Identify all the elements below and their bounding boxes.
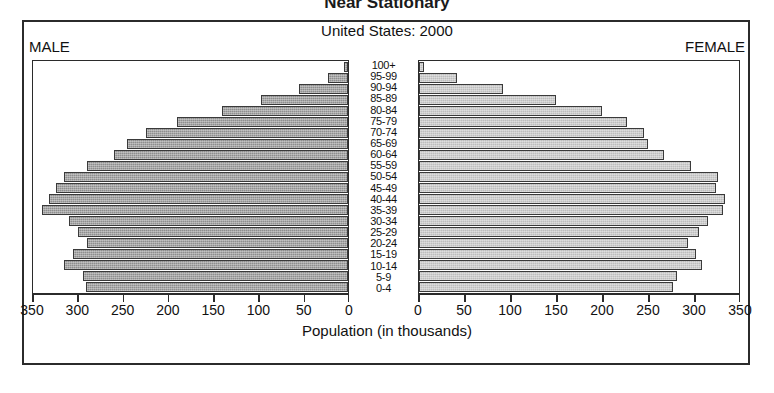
axis-tick-label: 50 xyxy=(456,302,472,318)
bar xyxy=(73,249,348,259)
bar xyxy=(419,161,691,171)
axis-tick xyxy=(32,295,34,302)
bar xyxy=(419,260,702,270)
axis-tick xyxy=(348,295,350,302)
chart-title: Near Stationary xyxy=(0,0,774,13)
bar-row xyxy=(419,227,739,238)
bar-row xyxy=(419,205,739,216)
bar-row xyxy=(33,105,348,116)
bar xyxy=(419,271,677,281)
female-plot-panel xyxy=(418,60,740,294)
bar-row xyxy=(33,149,348,160)
bar-row xyxy=(33,160,348,171)
bar-row xyxy=(419,171,739,182)
bar-row xyxy=(33,127,348,138)
bar-row xyxy=(419,105,739,116)
bar xyxy=(86,282,348,292)
bar xyxy=(419,95,556,105)
axis-tick xyxy=(168,295,170,302)
female-bar-rows xyxy=(419,61,739,293)
bar-row xyxy=(419,61,739,72)
bar-row xyxy=(33,249,348,260)
bar-row xyxy=(33,238,348,249)
male-side-label: MALE xyxy=(29,38,70,55)
bar-row xyxy=(419,94,739,105)
male-bar-rows xyxy=(33,61,348,293)
axis-tick xyxy=(213,295,215,302)
age-group-label: 50-54 xyxy=(349,171,418,182)
bar xyxy=(419,128,644,138)
bar-row xyxy=(33,271,348,282)
bar xyxy=(419,249,696,259)
bar xyxy=(261,95,348,105)
axis-tick-label: 250 xyxy=(111,302,134,318)
bar xyxy=(127,139,348,149)
bar-row xyxy=(33,183,348,194)
axis-tick xyxy=(123,295,125,302)
bar xyxy=(419,73,457,83)
bar xyxy=(419,183,716,193)
bar-row xyxy=(419,260,739,271)
age-group-label: 10-14 xyxy=(349,261,418,272)
bar-row xyxy=(419,249,739,260)
population-pyramid-figure: Near Stationary United States: 2000 MALE… xyxy=(0,0,774,393)
bar xyxy=(69,216,348,226)
age-group-label: 0-4 xyxy=(349,283,418,294)
axis-tick-label: 150 xyxy=(201,302,224,318)
bar xyxy=(222,106,348,116)
bar xyxy=(87,238,348,248)
axis-tick xyxy=(304,295,306,302)
bar xyxy=(177,117,348,127)
bar-row xyxy=(419,282,739,293)
bar xyxy=(42,205,348,215)
bar-row xyxy=(33,83,348,94)
bar-row xyxy=(419,127,739,138)
x-axis-caption: Population (in thousands) xyxy=(0,322,774,339)
bar-row xyxy=(33,282,348,293)
female-side-label: FEMALE xyxy=(685,38,745,55)
axis-tick-label: 350 xyxy=(728,302,751,318)
bar xyxy=(419,205,723,215)
bar xyxy=(83,271,349,281)
bar-row xyxy=(419,116,739,127)
bar-row xyxy=(419,216,739,227)
bar xyxy=(146,128,349,138)
bar-row xyxy=(419,138,739,149)
axis-tick xyxy=(602,295,604,302)
axis-tick-label: 300 xyxy=(66,302,89,318)
bar-row xyxy=(33,205,348,216)
bar-row xyxy=(33,61,348,72)
bar-row xyxy=(419,194,739,205)
bar xyxy=(419,117,627,127)
bar xyxy=(64,260,348,270)
bar-row xyxy=(419,183,739,194)
axis-tick-label: 0 xyxy=(345,302,353,318)
bar xyxy=(78,227,348,237)
bar-row xyxy=(33,227,348,238)
bar xyxy=(419,216,708,226)
bar xyxy=(419,106,602,116)
axis-tick xyxy=(739,295,741,302)
bar xyxy=(419,238,688,248)
bar xyxy=(419,62,424,72)
bar-row xyxy=(33,171,348,182)
axis-tick xyxy=(556,295,558,302)
chart-subtitle: United States: 2000 xyxy=(0,22,774,39)
axis-tick-label: 200 xyxy=(156,302,179,318)
bar xyxy=(328,73,348,83)
axis-tick xyxy=(648,295,650,302)
bar-row xyxy=(419,72,739,83)
bar xyxy=(419,150,664,160)
bar-row xyxy=(33,116,348,127)
bar xyxy=(87,161,348,171)
bar-row xyxy=(419,83,739,94)
bar xyxy=(419,282,673,292)
axis-tick-label: 350 xyxy=(20,302,43,318)
axis-tick-label: 200 xyxy=(590,302,613,318)
age-group-axis: 100+95-9990-9485-8980-8475-7970-7465-696… xyxy=(349,60,418,294)
axis-tick xyxy=(418,295,420,302)
bar-row xyxy=(33,72,348,83)
bar xyxy=(64,172,348,182)
axis-tick-label: 0 xyxy=(414,302,422,318)
bar-row xyxy=(33,194,348,205)
